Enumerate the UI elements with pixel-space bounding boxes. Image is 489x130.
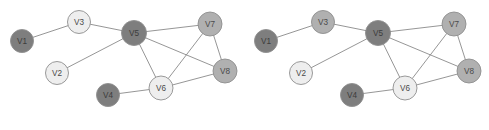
node-V6[interactable]: V6 [393, 76, 417, 100]
edge-V5-V7 [146, 25, 198, 31]
graph-canvas: V1V2V3V4V5V6V7V8V1V2V3V4V5V6V7V8 [0, 0, 489, 130]
node-V1[interactable]: V1 [255, 30, 278, 53]
edge-V5-V6 [384, 44, 400, 77]
node-V2[interactable]: V2 [46, 62, 69, 85]
edge-V6-V8 [173, 74, 214, 85]
node-circle-V5[interactable] [366, 21, 391, 46]
node-circle-V7[interactable] [198, 12, 222, 36]
node-circle-V5[interactable] [122, 21, 147, 46]
node-V3[interactable]: V3 [312, 11, 335, 34]
node-circle-V2[interactable] [290, 62, 313, 85]
node-circle-V8[interactable] [457, 59, 481, 83]
edge-V6-V7 [168, 34, 202, 79]
edge-V3-V5 [90, 24, 121, 30]
node-V5[interactable]: V5 [366, 21, 391, 46]
edge-V3-V5 [334, 24, 365, 30]
node-V8[interactable]: V8 [457, 59, 481, 83]
edge-V6-V8 [417, 74, 458, 85]
node-circle-V8[interactable] [213, 59, 237, 83]
edge-V5-V8 [146, 38, 214, 67]
edge-V7-V8 [214, 35, 222, 59]
edge-V4-V6 [363, 90, 393, 94]
edge-V4-V6 [119, 90, 149, 94]
edge-V5-V7 [390, 25, 442, 31]
edge-V5-V8 [390, 38, 458, 67]
edge-V1-V3 [277, 26, 312, 38]
node-V6[interactable]: V6 [149, 76, 173, 100]
node-circle-V4[interactable] [97, 84, 120, 107]
node-V4[interactable]: V4 [97, 84, 120, 107]
node-circle-V2[interactable] [46, 62, 69, 85]
node-V5[interactable]: V5 [122, 21, 147, 46]
node-V1[interactable]: V1 [11, 30, 34, 53]
left-graph-nodes: V1V2V3V4V5V6V7V8 [11, 11, 238, 107]
node-circle-V6[interactable] [393, 76, 417, 100]
graph-figure: V1V2V3V4V5V6V7V8V1V2V3V4V5V6V7V8 [0, 0, 489, 130]
node-circle-V6[interactable] [149, 76, 173, 100]
edge-V2-V5 [67, 39, 123, 68]
node-circle-V3[interactable] [68, 11, 91, 34]
edge-V5-V6 [140, 44, 156, 77]
node-circle-V7[interactable] [442, 12, 466, 36]
edge-V1-V3 [33, 26, 68, 38]
edge-V7-V8 [458, 35, 466, 59]
node-V7[interactable]: V7 [198, 12, 222, 36]
node-V7[interactable]: V7 [442, 12, 466, 36]
node-circle-V4[interactable] [341, 84, 364, 107]
node-V4[interactable]: V4 [341, 84, 364, 107]
edge-V6-V7 [412, 34, 446, 79]
node-circle-V1[interactable] [11, 30, 34, 53]
node-circle-V1[interactable] [255, 30, 278, 53]
right-graph-nodes: V1V2V3V4V5V6V7V8 [255, 11, 482, 107]
node-V8[interactable]: V8 [213, 59, 237, 83]
node-V2[interactable]: V2 [290, 62, 313, 85]
node-circle-V3[interactable] [312, 11, 335, 34]
edge-V2-V5 [311, 39, 367, 68]
nodes-layer: V1V2V3V4V5V6V7V8V1V2V3V4V5V6V7V8 [11, 11, 482, 107]
node-V3[interactable]: V3 [68, 11, 91, 34]
